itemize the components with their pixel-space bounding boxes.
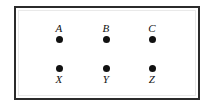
- diagram-frame: [14, 6, 200, 100]
- node-a-label: A: [44, 23, 74, 34]
- node-c-label: C: [137, 23, 167, 34]
- node-z: Z: [137, 65, 167, 85]
- node-b-dot: [103, 36, 110, 43]
- node-z-label: Z: [137, 74, 167, 85]
- node-a: A: [44, 23, 74, 43]
- node-y-label: Y: [91, 74, 121, 85]
- node-y-dot: [103, 65, 110, 72]
- node-x-dot: [56, 65, 63, 72]
- node-b: B: [91, 23, 121, 43]
- node-c-dot: [149, 36, 156, 43]
- node-y: Y: [91, 65, 121, 85]
- node-c: C: [137, 23, 167, 43]
- diagram-canvas: A B C X Y Z: [0, 0, 212, 107]
- node-z-dot: [149, 65, 156, 72]
- node-x-label: X: [44, 74, 74, 85]
- node-a-dot: [56, 36, 63, 43]
- node-x: X: [44, 65, 74, 85]
- node-b-label: B: [91, 23, 121, 34]
